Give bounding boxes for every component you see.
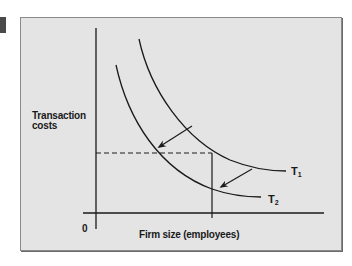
curve-label-t1: T1 — [291, 165, 302, 178]
curve-label-t1-main: T — [291, 165, 298, 177]
curve-label-t2-main: T — [268, 193, 275, 205]
curve-t1 — [139, 39, 286, 171]
origin-label: 0 — [82, 223, 88, 234]
curve-label-t1-sub: 1 — [298, 171, 302, 178]
curve-label-t2: T2 — [268, 193, 279, 206]
y-axis-label: Transaction costs — [32, 111, 86, 131]
curve-label-t2-sub: 2 — [275, 199, 279, 206]
x-axis-label: Firm size (employees) — [139, 229, 239, 240]
shift-arrow-lower — [221, 169, 252, 187]
shift-arrow-upper — [159, 126, 192, 147]
y-axis-label-line2: costs — [32, 121, 86, 131]
chart-plot — [0, 0, 352, 266]
